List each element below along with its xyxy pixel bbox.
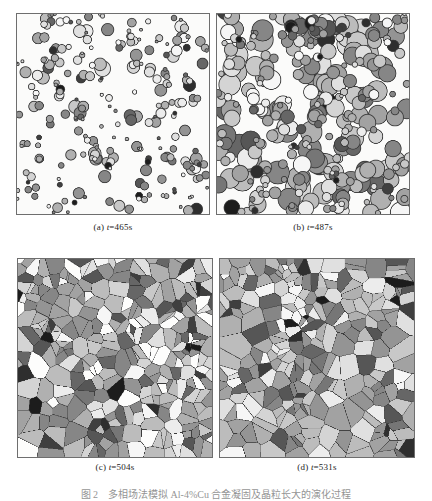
panel-a-time-value: =465s (109, 222, 132, 232)
panel-a (16, 13, 210, 215)
panel-d (219, 258, 415, 458)
panel-a-caption: (a) t=465s (16, 222, 210, 232)
panel-a-canvas (17, 14, 209, 214)
panel-c-canvas (18, 259, 212, 457)
panel-d-time-value: =531s (314, 462, 337, 472)
panel-b-caption: (b) t=487s (216, 222, 410, 232)
figure-caption-text: 多相场法模拟 Al-4%Cu 合金凝固及晶粒长大的演化过程 (108, 489, 351, 500)
panel-c (17, 258, 213, 458)
panel-a-label: (a) (94, 222, 105, 232)
panel-c-time-value: =504s (111, 462, 134, 472)
panel-b-canvas (217, 14, 409, 214)
panel-c-label: (c) (96, 462, 107, 472)
panel-d-canvas (220, 259, 414, 457)
figure-caption: 图 2多相场法模拟 Al-4%Cu 合金凝固及晶粒长大的演化过程 (0, 486, 432, 501)
panel-b-time-value: =487s (310, 222, 333, 232)
panel-d-label: (d) (297, 462, 308, 472)
figure-caption-number: 图 2 (81, 489, 99, 500)
panel-c-caption: (c) t=504s (17, 462, 213, 472)
panel-b (216, 13, 410, 215)
panel-b-label: (b) (293, 222, 304, 232)
panel-d-caption: (d) t=531s (219, 462, 415, 472)
